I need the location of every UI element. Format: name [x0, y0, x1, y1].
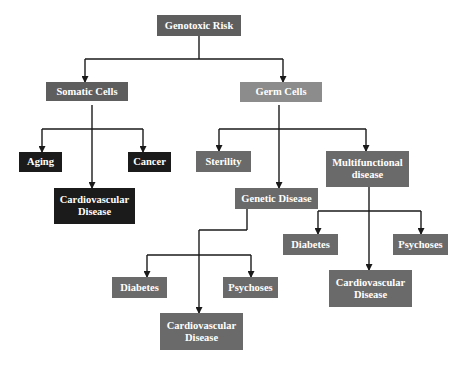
node-multi-cardiovascular-disease: Cardiovascular Disease: [329, 270, 412, 307]
node-multifunctional-disease: Multifunctional disease: [326, 151, 409, 187]
node-aging: Aging: [19, 152, 62, 172]
node-genetic-cardiovascular-disease: Cardiovascular Disease: [160, 313, 243, 350]
node-cancer: Cancer: [128, 152, 171, 172]
node-genotoxic-risk: Genotoxic Risk: [157, 15, 241, 36]
node-multi-psychoses: Psychoses: [393, 234, 448, 255]
node-somatic-cardiovascular-disease: Cardiovascular Disease: [54, 188, 135, 224]
node-genetic-diabetes: Diabetes: [112, 277, 167, 298]
node-multi-diabetes: Diabetes: [283, 234, 338, 255]
node-sterility: Sterility: [196, 151, 251, 172]
genotoxic-risk-diagram: Genotoxic Risk Somatic Cells Germ Cells …: [0, 0, 468, 369]
node-somatic-cells: Somatic Cells: [46, 82, 128, 101]
node-genetic-disease: Genetic Disease: [235, 188, 318, 209]
node-genetic-psychoses: Psychoses: [223, 277, 278, 298]
node-germ-cells: Germ Cells: [240, 82, 322, 102]
